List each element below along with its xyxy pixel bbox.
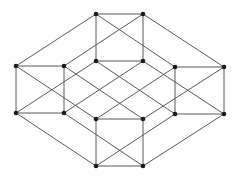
edge-A-G (96, 14, 175, 67)
hypercube-graph (0, 0, 239, 178)
edge-I-C (16, 61, 96, 113)
node-M (94, 117, 99, 122)
node-D (141, 59, 146, 64)
node-E (14, 64, 19, 69)
node-I (14, 111, 19, 116)
node-H (222, 65, 227, 70)
edge-G-M (96, 67, 175, 119)
edge-E-M (16, 66, 96, 119)
graph-nodes (14, 12, 227, 169)
graph-edges (16, 14, 224, 166)
edge-A-E (16, 14, 96, 66)
node-F (62, 64, 67, 69)
node-O (94, 164, 99, 169)
edge-J-D (64, 61, 143, 113)
edge-O-K (96, 114, 175, 166)
node-K (173, 112, 178, 117)
edge-B-F (64, 14, 143, 66)
node-L (222, 112, 227, 117)
node-J (62, 111, 67, 116)
node-A (94, 12, 99, 17)
edge-D-L (143, 61, 224, 114)
node-B (141, 12, 146, 17)
edge-B-H (143, 14, 224, 67)
edge-F-N (64, 66, 143, 119)
edge-P-J (64, 113, 143, 166)
edge-L-P (143, 114, 224, 166)
node-P (141, 164, 146, 169)
node-N (141, 117, 146, 122)
edge-I-O (16, 113, 96, 166)
node-G (173, 65, 178, 70)
node-C (94, 59, 99, 64)
edge-H-N (143, 67, 224, 119)
